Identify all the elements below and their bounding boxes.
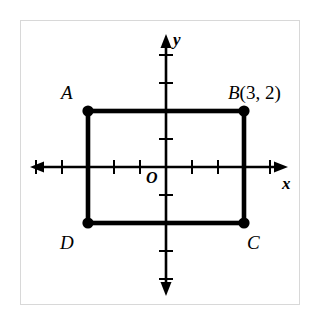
vertex-label-d: D (60, 233, 74, 252)
vertex-point-d (82, 217, 93, 228)
x-axis (30, 162, 288, 173)
y-axis (161, 34, 172, 296)
coordinate-graph (0, 0, 316, 321)
vertex-label-a: A (61, 83, 73, 102)
figure-root: A B(3, 2) C D O x y (0, 0, 316, 321)
vertex-point-b (238, 105, 249, 116)
vertex-label-b: B(3, 2) (228, 83, 281, 102)
y-axis-label: y (173, 31, 181, 48)
origin-label: O (146, 170, 158, 186)
y-axis-arrow-up (161, 34, 172, 48)
vertex-point-a (82, 105, 93, 116)
x-axis-label: x (282, 175, 291, 192)
vertex-label-c: C (247, 233, 260, 252)
vertex-label-b-coordinates: (3, 2) (240, 82, 281, 103)
x-axis-arrow-right (274, 162, 288, 173)
y-axis-arrow-down (161, 282, 172, 296)
vertex-point-c (238, 217, 249, 228)
vertex-label-b-letter: B (228, 82, 240, 103)
